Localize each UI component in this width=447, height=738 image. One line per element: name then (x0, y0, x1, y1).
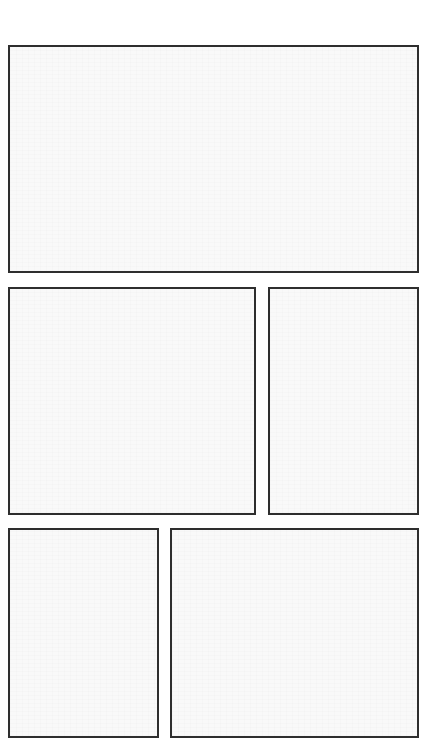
panel-4 (8, 528, 159, 738)
panel-3 (268, 287, 419, 515)
panel-5 (170, 528, 419, 738)
panel-1 (8, 45, 419, 273)
panel-2 (8, 287, 256, 515)
